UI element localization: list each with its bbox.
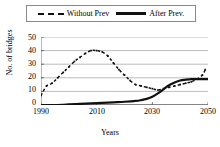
data-point-2014 [107,55,109,57]
data-point-2008 [90,50,92,52]
x-tick-2010: 2010 [80,108,114,116]
data-point-2040 [179,84,181,86]
data-point-1992 [46,85,48,87]
solid-line-swatch-icon [116,12,146,15]
legend-label-after-prev: After Prev. [149,9,184,18]
y-tick-50: 50 [14,34,36,42]
data-point-2044 [190,81,192,83]
x-tick-2050: 2050 [191,108,220,116]
data-point-2028 [146,86,148,88]
data-point-2016 [113,62,115,64]
data-point-1994 [51,82,53,84]
x-axis-label: Years [0,128,220,137]
x-tick-2030: 2030 [135,108,169,116]
y-tick-0: 0 [14,99,36,107]
data-point-2004 [79,57,81,59]
axis-ticks [41,37,208,105]
data-point-2000 [68,66,70,68]
series-line [41,79,208,105]
y-tick-20: 20 [14,73,36,81]
plot-svg [41,37,208,105]
data-point-1990 [41,95,42,97]
data-point-2032 [157,89,159,91]
series-after-prev [41,79,208,105]
data-point-2026 [140,85,142,87]
x-tick-1990: 1990 [24,108,58,116]
chart-legend: Without Prev After Prev. [26,5,196,22]
data-point-2042 [185,82,187,84]
series-without-prev [41,50,206,97]
data-point-2030 [151,88,153,90]
axis-lines [41,37,208,105]
legend-item-after-prev: After Prev. [116,9,184,18]
legend-label-without-prev: Without Prev [67,9,110,18]
data-point-2006 [85,52,87,54]
y-axis-label: No. of bridges [5,22,14,84]
legend-item-without-prev: Without Prev [38,9,110,18]
y-tick-10: 10 [14,86,36,94]
data-point-2048 [202,74,204,76]
plot-area [41,37,208,105]
data-point-2049 [204,69,206,71]
data-point-2038 [174,85,176,87]
data-point-2012 [101,51,103,53]
data-series-layer [41,50,208,105]
y-tick-40: 40 [14,47,36,55]
data-point-2002 [74,61,76,63]
data-point-1998 [62,72,64,74]
data-point-2024 [135,84,137,86]
y-tick-30: 30 [14,60,36,68]
data-point-2022 [129,80,131,82]
chart-container: Without Prev After Prev. 50 40 30 20 10 … [0,0,220,147]
data-point-1996 [57,77,59,79]
data-point-2018 [118,69,120,71]
data-point-2010 [96,50,98,52]
series-line [41,50,205,95]
data-point-2020 [124,74,126,76]
dashed-line-swatch-icon [38,13,64,15]
